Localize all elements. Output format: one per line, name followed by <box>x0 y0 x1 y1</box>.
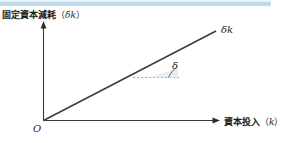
y-axis-label-text: 固定資本減耗 <box>2 10 56 20</box>
y-axis <box>41 21 47 121</box>
y-axis-label-paren-open: （ <box>56 10 65 20</box>
x-axis-label-text: 資本投入 <box>224 117 260 127</box>
figure-container: 固定資本減耗（δk） 資本投入（k） δk δ O <box>0 0 289 143</box>
x-axis-label-paren-open: （ <box>260 117 269 127</box>
y-axis-label-symbol: δk <box>65 10 76 20</box>
origin-label: O <box>33 123 41 134</box>
x-axis-label: 資本投入（k） <box>224 115 283 128</box>
slope-angle-label: δ <box>172 60 178 71</box>
x-axis-label-paren-close: ） <box>274 117 283 127</box>
depreciation-line-label: δk <box>221 24 233 35</box>
y-axis-label: 固定資本減耗（δk） <box>2 8 85 21</box>
x-axis <box>44 118 221 124</box>
x-axis-arrowhead-icon <box>213 118 221 124</box>
y-axis-label-paren-close: ） <box>76 10 85 20</box>
y-axis-arrowhead-icon <box>41 21 47 29</box>
depreciation-line <box>44 31 217 121</box>
